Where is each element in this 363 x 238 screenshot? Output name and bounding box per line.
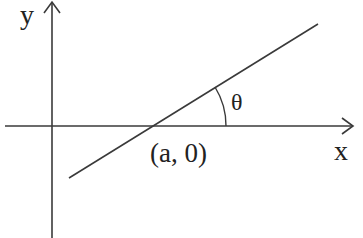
x-axis <box>5 118 353 134</box>
coordinate-diagram: y x (a, 0) θ <box>0 0 363 238</box>
y-axis-label: y <box>20 0 34 30</box>
angle-arc <box>215 87 226 126</box>
angle-label: θ <box>231 89 243 115</box>
y-axis <box>44 2 60 238</box>
point-label: (a, 0) <box>150 138 207 168</box>
x-axis-label: x <box>334 135 348 166</box>
